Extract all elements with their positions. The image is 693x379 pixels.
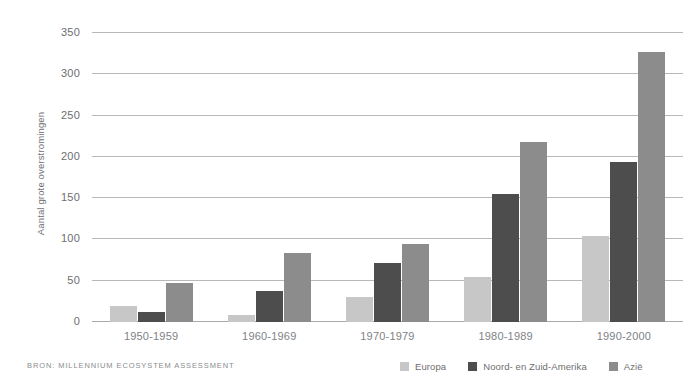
- legend-swatch-icon: [468, 362, 477, 371]
- bar[interactable]: [228, 315, 255, 322]
- legend-swatch-icon: [609, 362, 618, 371]
- bar[interactable]: [402, 244, 429, 322]
- source-note: BRON: MILLENNIUM ECOSYSTEM ASSESSMENT: [27, 361, 235, 370]
- bar[interactable]: [138, 312, 165, 322]
- y-tick-label: 350: [61, 26, 80, 38]
- legend-swatch-icon: [400, 362, 409, 371]
- bar[interactable]: [374, 263, 401, 322]
- x-tick-label: 1950-1959: [92, 330, 210, 342]
- bar[interactable]: [520, 142, 547, 322]
- bar-group: [447, 33, 565, 322]
- y-tick-label: 50: [67, 274, 80, 286]
- bar-group: [210, 33, 328, 322]
- x-tick-label: 1970-1979: [328, 330, 446, 342]
- legend-label: Europa: [415, 361, 446, 372]
- x-tick-label: 1990-2000: [565, 330, 683, 342]
- bar[interactable]: [492, 194, 519, 322]
- legend-item[interactable]: Noord- en Zuid-Amerika: [468, 361, 587, 372]
- x-axis-labels: 1950-19591960-19691970-19791980-19891990…: [92, 330, 683, 350]
- y-tick-label: 0: [74, 315, 80, 327]
- bar-group: [92, 33, 210, 322]
- bar-chart: Aantal grote overstromingen 050100150200…: [0, 0, 693, 379]
- bar[interactable]: [284, 253, 311, 322]
- bar[interactable]: [346, 297, 373, 322]
- bar[interactable]: [256, 291, 283, 322]
- bar-group: [565, 33, 683, 322]
- legend-label: Azië: [624, 361, 643, 372]
- bar[interactable]: [610, 162, 637, 322]
- y-tick-label: 250: [61, 109, 80, 121]
- plot-area: 050100150200250300350: [92, 33, 683, 322]
- bar-group: [328, 33, 446, 322]
- y-tick-label: 200: [61, 150, 80, 162]
- legend-label: Noord- en Zuid-Amerika: [483, 361, 587, 372]
- legend: EuropaNoord- en Zuid-AmerikaAzië: [400, 361, 643, 372]
- bar[interactable]: [582, 236, 609, 322]
- bar[interactable]: [464, 277, 491, 322]
- bar[interactable]: [638, 52, 665, 322]
- y-tick-label: 300: [61, 67, 80, 79]
- y-tick-label: 150: [61, 191, 80, 203]
- legend-item[interactable]: Europa: [400, 361, 446, 372]
- bars-layer: [92, 33, 683, 322]
- x-tick-label: 1980-1989: [447, 330, 565, 342]
- bar[interactable]: [110, 306, 137, 323]
- bar[interactable]: [166, 283, 193, 322]
- y-axis-title: Aantal grote overstromingen: [35, 44, 46, 304]
- y-tick-label: 100: [61, 232, 80, 244]
- legend-item[interactable]: Azië: [609, 361, 643, 372]
- x-tick-label: 1960-1969: [210, 330, 328, 342]
